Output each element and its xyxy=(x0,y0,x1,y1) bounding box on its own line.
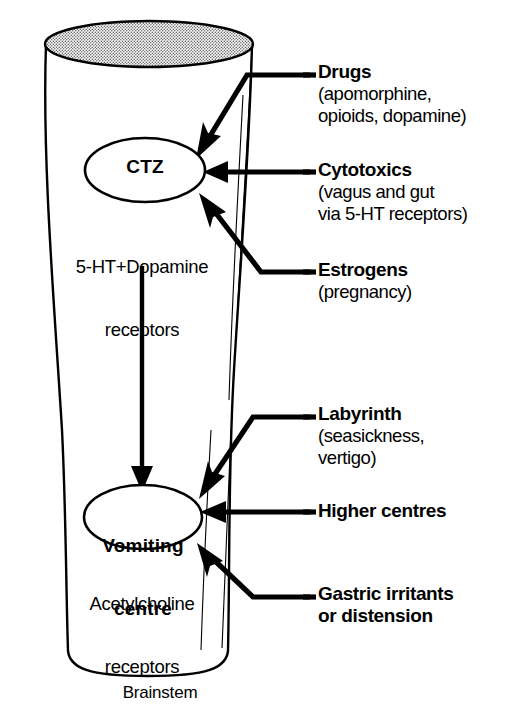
callout-labyrinth: Labyrinth (seasickness, vertigo) xyxy=(318,403,424,469)
callout-gastric-heading-line2: or distension xyxy=(318,605,454,627)
callout-estrogens: Estrogens (pregnancy) xyxy=(318,259,412,303)
callout-gastric-heading-line1: Gastric irritants xyxy=(318,583,454,605)
callout-cytotoxics: Cytotoxics (vagus and gut via 5-HT recep… xyxy=(318,159,467,225)
vomiting-centre-receptors-line1: Acetylcholine xyxy=(22,594,262,615)
callout-cytotoxics-detail-line1: (vagus and gut xyxy=(318,181,467,203)
ctz-node-label: CTZ xyxy=(85,156,205,177)
ctz-receptors-line1: 5-HT+Dopamine xyxy=(14,257,270,278)
brainstem-top-surface xyxy=(45,21,253,67)
ctz-receptors-label: 5-HT+Dopamine receptors xyxy=(14,216,270,382)
callout-drugs: Drugs (apomorphine, opioids, dopamine) xyxy=(318,61,466,127)
vomiting-centre-receptors-line2: receptors xyxy=(22,657,262,678)
callout-higher-centres-heading: Higher centres xyxy=(318,500,446,522)
ctz-receptors-line2: receptors xyxy=(14,320,270,341)
callout-drugs-heading: Drugs xyxy=(318,61,466,83)
callout-gastric-irritants: Gastric irritants or distension xyxy=(318,583,454,627)
callout-cytotoxics-detail-line2: via 5-HT receptors) xyxy=(318,203,467,225)
callout-cytotoxics-heading: Cytotoxics xyxy=(318,159,467,181)
callout-higher-centres: Higher centres xyxy=(318,500,446,522)
callout-labyrinth-heading: Labyrinth xyxy=(318,403,424,425)
callout-leader-lines xyxy=(303,75,316,597)
callout-labyrinth-detail-line1: (seasickness, xyxy=(318,425,424,447)
callout-drugs-detail-line2: opioids, dopamine) xyxy=(318,105,466,127)
callout-estrogens-detail-line1: (pregnancy) xyxy=(318,281,412,303)
brainstem-label: Brainstem xyxy=(40,683,280,702)
vomiting-pathways-diagram: CTZ Vomiting centre 5-HT+Dopamine recept… xyxy=(0,0,522,719)
callout-estrogens-heading: Estrogens xyxy=(318,259,412,281)
callout-labyrinth-detail-line2: vertigo) xyxy=(318,447,424,469)
callout-drugs-detail-line1: (apomorphine, xyxy=(318,83,466,105)
